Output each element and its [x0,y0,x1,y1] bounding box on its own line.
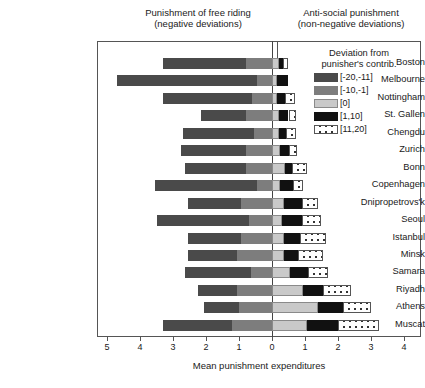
bar-segment [185,267,251,278]
x-axis-tick-label: 0 [262,342,282,352]
bar-segment [302,198,319,209]
bar-segment [293,180,303,191]
bar-row [0,198,425,209]
legend-label: [-10,-1] [340,85,369,95]
bar-segment [237,285,272,296]
x-axis-tick [272,337,273,341]
bar-segment [292,163,307,174]
panel-header-left: Punishment of free riding (negative devi… [118,7,278,29]
bar-segment [343,302,371,313]
x-axis-tick-label: 2 [328,342,348,352]
bar-row [0,180,425,191]
bar-segment [157,215,249,226]
bar-segment [183,128,254,139]
bar-segment [163,93,252,104]
bar-segment [246,163,272,174]
bar-segment [280,145,288,156]
bar-segment [298,250,323,261]
bar-segment [286,128,296,139]
bar-segment [163,320,232,331]
bar-segment [303,285,323,296]
x-axis-tick [107,337,108,341]
bar-segment [246,110,272,121]
bar-segment [272,180,280,191]
legend-label: [-20,-11] [340,72,373,82]
x-axis-tick [206,337,207,341]
legend-label: [0] [340,98,350,108]
bar-segment [279,110,289,121]
bar-segment [338,320,379,331]
bar-segment [272,250,284,261]
bar-segment [277,75,289,86]
x-axis-tick-label: 4 [394,342,414,352]
bar-segment [257,75,272,86]
bar-row [0,302,425,313]
x-axis-tick [338,337,339,341]
bar-segment [204,302,239,313]
bar-segment [272,233,284,244]
legend-swatch [314,125,338,134]
legend-title-line2: punisher's contrib. [300,59,418,70]
x-axis-title: Mean punishment expenditures [97,360,421,371]
legend-items: [-20,-11][-10,-1][0][1,10][11,20] [300,72,418,134]
legend-item: [1,10] [300,111,418,121]
bar-segment [254,128,272,139]
x-axis-tick-label: 3 [163,342,183,352]
bar-segment [272,320,307,331]
bar-segment [302,215,322,226]
x-axis-tick [239,337,240,341]
bar-segment [277,93,285,104]
bar-segment [257,180,272,191]
bar-row [0,267,425,278]
x-axis-tick-label: 3 [361,342,381,352]
bar-segment [188,250,238,261]
legend-item: [11,20] [300,124,418,134]
x-axis-tick-label: 5 [97,342,117,352]
legend-swatch [314,112,338,121]
bar-segment [155,180,257,191]
x-axis-tick [173,337,174,341]
bar-segment [307,320,338,331]
bar-segment [241,233,272,244]
bar-segment [272,110,279,121]
bar-segment [289,145,297,156]
bar-segment [185,163,246,174]
panel-header-left-line1: Punishment of free riding [118,7,278,18]
bar-segment [272,302,318,313]
bar-segment [272,58,279,69]
bar-segment [284,233,301,244]
x-axis-tick-label: 4 [130,342,150,352]
bar-segment [201,110,246,121]
bar-segment [289,110,296,121]
chart-canvas: Punishment of free riding (negative devi… [0,0,425,388]
bar-segment [163,58,246,69]
bar-segment [246,145,272,156]
bar-segment [280,180,293,191]
bar-segment [117,75,257,86]
bar-row [0,163,425,174]
legend-item: [0] [300,98,418,108]
panel-header-right-line2: (non-negative deviations) [280,18,422,29]
bar-segment [272,215,282,226]
bar-row [0,233,425,244]
bar-segment [308,267,328,278]
x-axis-tick [305,337,306,341]
bar-segment [284,198,302,209]
bar-segment [272,267,290,278]
bar-segment [285,93,295,104]
legend-title-line1: Deviation from [300,48,418,59]
legend-swatch [314,86,338,95]
bar-segment [272,198,284,209]
legend-swatch [314,99,338,108]
x-axis-tick-label: 1 [229,342,249,352]
bar-segment [272,285,303,296]
bar-segment [239,302,272,313]
bar-segment [318,302,343,313]
x-axis-tick [140,337,141,341]
bar-segment [232,320,272,331]
legend-item: [-20,-11] [300,72,418,82]
bar-segment [251,267,272,278]
bar-segment [300,233,326,244]
bar-segment [188,233,241,244]
bar-segment [181,145,245,156]
